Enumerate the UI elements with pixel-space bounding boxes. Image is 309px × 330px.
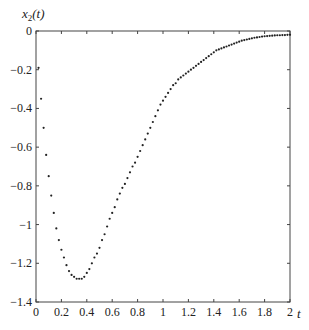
data-point	[139, 150, 141, 152]
data-point	[78, 278, 80, 280]
data-point	[106, 225, 108, 227]
x-tick-label: 1	[160, 305, 166, 319]
data-point	[164, 96, 166, 98]
data-point	[258, 36, 260, 38]
data-point	[48, 175, 50, 177]
data-point	[68, 270, 70, 272]
data-point	[63, 256, 65, 258]
data-point	[149, 127, 151, 129]
data-point	[96, 253, 98, 255]
y-axis-ticks: 0−0.2−0.4−0.6−0.8−1−1.2−1.4	[10, 24, 290, 309]
data-point	[37, 67, 39, 69]
data-point	[103, 233, 105, 235]
y-tick-label: −1.2	[10, 256, 32, 270]
data-point	[144, 138, 146, 140]
data-point	[253, 37, 255, 39]
data-point	[185, 72, 187, 74]
data-point	[261, 36, 263, 38]
x-tick-label: 0.4	[79, 305, 94, 319]
x-axis-title: t	[297, 306, 301, 321]
data-point	[256, 36, 258, 38]
data-point	[147, 132, 149, 134]
data-point	[266, 35, 268, 37]
data-point	[192, 67, 194, 69]
data-point	[172, 84, 174, 86]
data-point	[116, 198, 118, 200]
data-point	[91, 262, 93, 264]
data-point	[180, 76, 182, 78]
data-point	[286, 34, 288, 36]
data-point	[43, 127, 45, 129]
data-point	[134, 162, 136, 164]
data-point	[40, 98, 42, 100]
y-tick-label: −1	[19, 218, 32, 232]
data-point	[228, 44, 230, 46]
data-point	[223, 46, 225, 48]
data-point	[70, 274, 72, 276]
data-point	[93, 256, 95, 258]
y-tick-label: −0.8	[10, 179, 32, 193]
data-point	[233, 42, 235, 44]
data-point	[119, 193, 121, 195]
data-point	[175, 82, 177, 84]
y-axis-title: x2(t)	[21, 6, 45, 23]
data-point	[159, 103, 161, 105]
data-point	[76, 278, 78, 280]
data-point	[269, 35, 271, 37]
data-point	[195, 65, 197, 67]
data-point	[114, 206, 116, 208]
y-tick-label: −1.4	[10, 295, 32, 309]
data-point	[210, 53, 212, 55]
x-tick-label: 0	[33, 305, 39, 319]
data-point	[274, 34, 276, 36]
data-point	[289, 34, 291, 36]
data-point	[152, 121, 154, 123]
data-point	[50, 194, 52, 196]
data-point	[142, 144, 144, 146]
x-tick-label: 1.2	[181, 305, 196, 319]
data-point	[208, 55, 210, 57]
data-point	[83, 276, 85, 278]
data-point	[281, 34, 283, 36]
data-point	[162, 100, 164, 102]
data-point	[213, 51, 215, 53]
data-point	[276, 34, 278, 36]
data-point	[200, 61, 202, 63]
data-point	[215, 49, 217, 51]
x-tick-label: 0.8	[130, 305, 145, 319]
data-point	[129, 171, 131, 173]
data-point	[220, 47, 222, 49]
data-point	[121, 187, 123, 189]
data-point	[241, 40, 243, 42]
x-tick-label: 0.2	[54, 305, 69, 319]
data-point	[218, 48, 220, 50]
data-point	[182, 74, 184, 76]
x-tick-label: 2	[287, 305, 293, 319]
data-point	[190, 69, 192, 71]
data-point	[230, 43, 232, 45]
data-point	[225, 45, 227, 47]
data-points	[37, 34, 291, 280]
x-tick-label: 1.8	[257, 305, 272, 319]
y-tick-label: −0.4	[10, 101, 32, 115]
data-point	[197, 63, 199, 65]
y-tick-label: −0.2	[10, 63, 32, 77]
y-tick-label: 0	[26, 24, 32, 38]
svg-text:x2(t): x2(t)	[21, 6, 45, 23]
data-point	[111, 212, 113, 214]
x-tick-label: 1.6	[232, 305, 247, 319]
data-point	[203, 59, 205, 61]
data-point	[45, 154, 47, 156]
y-tick-label: −0.6	[10, 140, 32, 154]
data-point	[167, 92, 169, 94]
data-point	[271, 35, 273, 37]
data-point	[137, 156, 139, 158]
data-point	[65, 264, 67, 266]
data-point	[154, 115, 156, 117]
data-point	[124, 183, 126, 185]
data-point	[177, 78, 179, 80]
plot-frame	[36, 31, 290, 302]
data-point	[86, 272, 88, 274]
data-point	[58, 239, 60, 241]
data-point	[248, 38, 250, 40]
